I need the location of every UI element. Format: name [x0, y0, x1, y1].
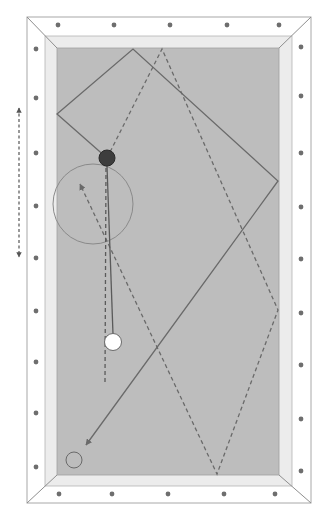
diamond-right: [299, 151, 304, 156]
diamond-left: [34, 309, 39, 314]
diamond-top: [112, 23, 117, 28]
diamond-bottom: [110, 492, 115, 497]
diamond-right: [299, 469, 304, 474]
diamond-bottom: [57, 492, 62, 497]
object-ball-dark: [99, 150, 115, 166]
billiards-diagram: [0, 0, 327, 524]
diamond-right: [299, 94, 304, 99]
diamond-left: [34, 96, 39, 101]
diamond-left: [34, 256, 39, 261]
diamond-right: [299, 363, 304, 368]
diagram-canvas: [0, 0, 327, 524]
diamond-left: [34, 411, 39, 416]
diamond-bottom: [166, 492, 171, 497]
target-ball-outline: [66, 452, 82, 468]
diamond-left: [34, 360, 39, 365]
diamond-top: [225, 23, 230, 28]
diamond-left: [34, 151, 39, 156]
table-felt: [57, 48, 279, 475]
diamond-right: [299, 311, 304, 316]
diamond-top: [56, 23, 61, 28]
diamond-top: [277, 23, 282, 28]
diamond-top: [168, 23, 173, 28]
diamond-bottom: [273, 492, 278, 497]
diamond-bottom: [222, 492, 227, 497]
diamond-left: [34, 465, 39, 470]
cue-ball-white: [105, 334, 122, 351]
diamond-left: [34, 47, 39, 52]
diamond-right: [299, 205, 304, 210]
diamond-right: [299, 257, 304, 262]
diamond-left: [34, 204, 39, 209]
diamond-right: [299, 417, 304, 422]
diamond-right: [299, 45, 304, 50]
